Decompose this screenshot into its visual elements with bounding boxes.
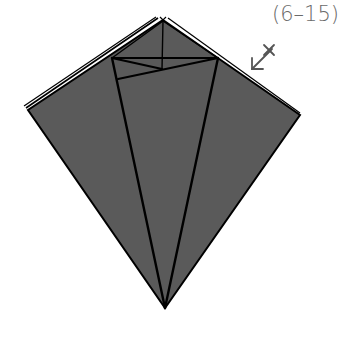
step-number-label: (6–15) bbox=[272, 2, 339, 26]
kite-paper bbox=[28, 20, 300, 308]
fold-arrow-x-icon bbox=[252, 45, 274, 69]
kite-diagram-svg bbox=[0, 0, 342, 337]
vertical-center-crease bbox=[162, 21, 163, 69]
origami-diagram: (6–15) bbox=[0, 0, 342, 337]
